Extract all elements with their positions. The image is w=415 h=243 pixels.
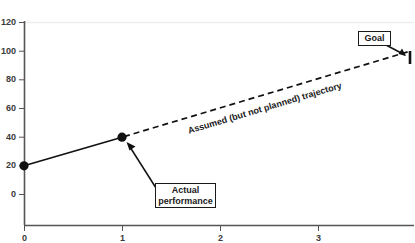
actual-leader-arrowhead xyxy=(127,142,136,151)
series-assumed-trajectory-line xyxy=(124,52,409,137)
actual-leader-line xyxy=(130,147,156,188)
y-axis-tick-label-120: 120 xyxy=(0,18,16,27)
y-axis-tick-label-80: 80 xyxy=(0,75,16,84)
y-axis-tick-label-0: 0 xyxy=(0,190,16,199)
y-axis-tick-label-60: 60 xyxy=(0,104,16,113)
data-point-1 xyxy=(117,133,126,142)
callout-goal: Goal xyxy=(358,31,391,46)
chart-container: 120 100 80 60 40 20 0 0 1 2 3 Assumed (b… xyxy=(0,0,415,243)
series-actual-line xyxy=(24,137,122,166)
callout-actual-performance-line1: Actual xyxy=(172,185,200,196)
y-axis-tick-label-100: 100 xyxy=(0,47,16,56)
y-axis-tick-label-20: 20 xyxy=(0,161,16,170)
callout-actual-performance-line2: performance xyxy=(158,196,213,207)
x-axis-tick-label-2: 2 xyxy=(211,234,231,243)
x-axis-tick-label-0: 0 xyxy=(15,234,35,243)
callout-goal-label: Goal xyxy=(364,33,384,44)
data-point-0 xyxy=(19,161,28,170)
callout-actual-performance: Actual performance xyxy=(155,183,216,208)
x-axis-tick-label-1: 1 xyxy=(113,234,133,243)
x-axis-tick-label-3: 3 xyxy=(309,234,329,243)
y-axis-tick-label-40: 40 xyxy=(0,133,16,142)
